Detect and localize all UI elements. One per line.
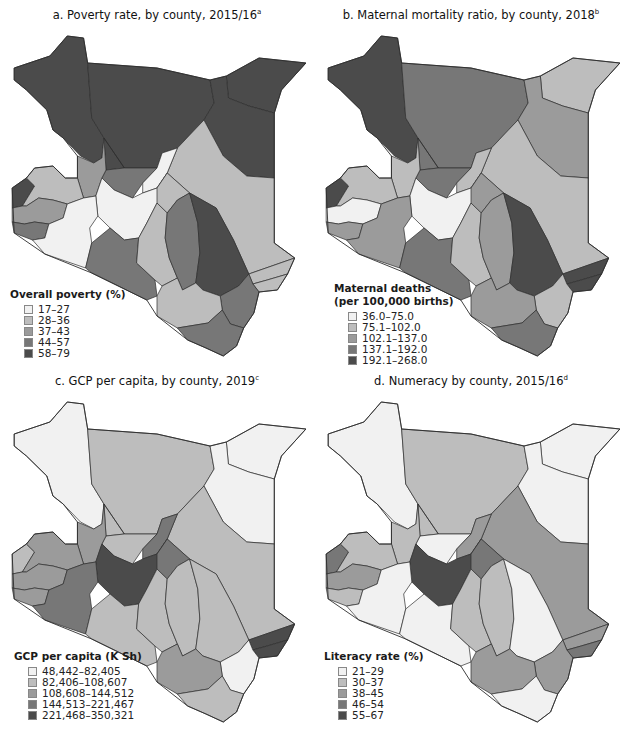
legend-swatch bbox=[24, 349, 33, 358]
legend-swatch bbox=[28, 700, 37, 709]
legend-swatch bbox=[348, 312, 357, 321]
legend-item: 192.1–268.0 bbox=[348, 355, 454, 366]
panel-title: c. GCP per capita, by county, 2019c bbox=[0, 374, 314, 388]
panel-c-gcp-per-capita-map: c. GCP per capita, by county, 2019c GCP … bbox=[0, 366, 314, 731]
panel-title: a. Poverty rate, by county, 2015/16a bbox=[0, 8, 314, 22]
legend-swatch bbox=[28, 678, 37, 687]
legend-swatch bbox=[348, 323, 357, 332]
legend-title: GCP per capita (K Sh) bbox=[14, 650, 142, 663]
legend-label: 55–67 bbox=[352, 710, 384, 721]
county-region-nyanza bbox=[326, 222, 363, 240]
legend-title: Maternal deaths(per 100,000 births) bbox=[334, 282, 454, 308]
county-region-nyanza bbox=[326, 588, 363, 606]
legend-swatch bbox=[24, 338, 33, 347]
legend-swatch bbox=[28, 711, 37, 720]
map-legend: Literacy rate (%) 21–2930–3738–4546–5455… bbox=[324, 650, 424, 721]
legend-swatch bbox=[24, 327, 33, 336]
legend-item: 221,468–350,321 bbox=[28, 710, 142, 721]
panel-title: b. Maternal mortality ratio, by county, … bbox=[314, 8, 628, 22]
legend-item: 58–79 bbox=[24, 348, 126, 359]
panel-title: d. Numeracy by county, 2015/16d bbox=[314, 374, 628, 388]
county-region-nyanza bbox=[12, 222, 49, 240]
legend-swatch bbox=[338, 678, 347, 687]
legend-label: 221,468–350,321 bbox=[42, 710, 134, 721]
legend-swatch bbox=[348, 334, 357, 343]
legend-swatch bbox=[338, 700, 347, 709]
legend-swatch bbox=[338, 711, 347, 720]
county-region-nyanza bbox=[12, 588, 49, 606]
panel-a-poverty-map: a. Poverty rate, by county, 2015/16a Ove… bbox=[0, 0, 314, 365]
legend-swatch bbox=[28, 689, 37, 698]
legend-swatch bbox=[348, 345, 357, 354]
legend-swatch bbox=[24, 316, 33, 325]
legend-swatch bbox=[338, 689, 347, 698]
panel-d-numeracy-map: d. Numeracy by county, 2015/16d Literacy… bbox=[314, 366, 628, 731]
legend-label: 192.1–268.0 bbox=[362, 355, 427, 366]
panel-b-maternal-mortality-map: b. Maternal mortality ratio, by county, … bbox=[314, 0, 628, 365]
legend-title: Literacy rate (%) bbox=[324, 650, 424, 663]
map-legend: Maternal deaths(per 100,000 births) 36.0… bbox=[334, 282, 454, 366]
map-legend: GCP per capita (K Sh) 48,442–82,40582,40… bbox=[14, 650, 142, 721]
map-legend: Overall poverty (%) 17–2728–3637–4344–57… bbox=[10, 288, 126, 359]
legend-label: 58–79 bbox=[38, 348, 70, 359]
legend-swatch bbox=[348, 356, 357, 365]
legend-swatch bbox=[28, 667, 37, 676]
legend-title: Overall poverty (%) bbox=[10, 288, 126, 301]
legend-swatch bbox=[338, 667, 347, 676]
legend-swatch bbox=[24, 305, 33, 314]
legend-item: 55–67 bbox=[338, 710, 424, 721]
